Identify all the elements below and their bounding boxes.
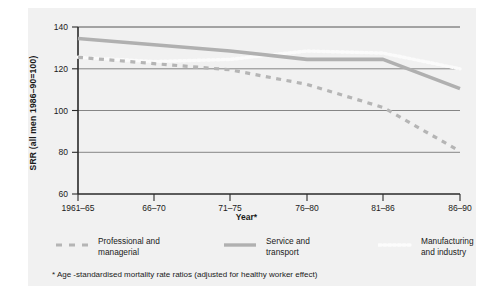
- legend-item-service-and-transport: Service and transport: [223, 236, 310, 257]
- chart-figure: SRR (all men 1986–90=100) 140 120 100 80…: [0, 0, 493, 294]
- legend-label-manufacturing-and-industry: Manufacturing and industry: [421, 236, 474, 257]
- plot-area: SRR (all men 1986–90=100) 140 120 100 80…: [0, 0, 493, 294]
- series-line-professional-and-managerial: [78, 57, 460, 151]
- legend-swatch-dotted-icon: [378, 237, 412, 249]
- x-axis-ticks: [78, 194, 460, 201]
- series-line-service-and-transport: [78, 39, 460, 89]
- chart-legend: Professional and managerial Service and …: [0, 236, 493, 270]
- legend-swatch-dashed-icon: [55, 237, 89, 249]
- legend-item-professional-and-managerial: Professional and managerial: [55, 236, 160, 257]
- y-tick-label-140: 140: [42, 22, 68, 32]
- y-tick-label-80: 80: [42, 147, 68, 157]
- y-axis-title: SRR (all men 1986–90=100): [28, 33, 38, 193]
- legend-swatch-solid-icon: [223, 237, 257, 249]
- x-axis-title: Year*: [0, 212, 493, 222]
- y-axis-ticks: [72, 27, 78, 194]
- y-tick-label-100: 100: [42, 106, 68, 116]
- chart-footnote: * Age -standardised mortality rate ratio…: [52, 270, 317, 279]
- y-tick-label-120: 120: [42, 64, 68, 74]
- legend-item-manufacturing-and-industry: Manufacturing and industry: [378, 236, 474, 257]
- gridlines: [78, 27, 460, 152]
- legend-label-professional-and-managerial: Professional and managerial: [98, 236, 160, 257]
- y-tick-label-60: 60: [42, 189, 68, 199]
- legend-label-service-and-transport: Service and transport: [266, 236, 310, 257]
